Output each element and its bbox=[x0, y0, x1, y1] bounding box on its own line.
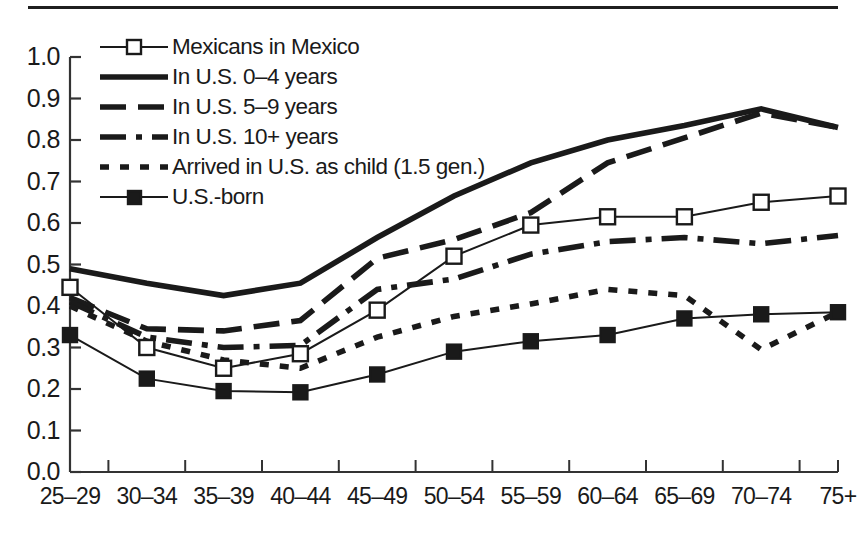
legend-swatch-icon bbox=[98, 34, 170, 60]
y-axis-tick-label: 1.0 bbox=[14, 44, 60, 69]
series-markers bbox=[63, 189, 846, 400]
data-point-marker bbox=[217, 384, 231, 398]
chart-legend: Mexicans in MexicoIn U.S. 0–4 yearsIn U.… bbox=[98, 32, 485, 212]
data-point-marker bbox=[754, 195, 769, 210]
x-axis-tick-label: 75+ bbox=[788, 484, 862, 508]
data-point-marker bbox=[447, 249, 462, 264]
y-axis-tick-label: 0.1 bbox=[14, 418, 60, 443]
legend-item-4: Arrived in U.S. as child (1.5 gen.) bbox=[98, 152, 485, 182]
legend-item-5: U.S.-born bbox=[98, 182, 485, 212]
y-axis-tick-label: 0.6 bbox=[14, 210, 60, 235]
data-point-marker bbox=[63, 280, 78, 295]
data-point-marker bbox=[370, 303, 385, 318]
y-axis-tick-label: 0.3 bbox=[14, 335, 60, 360]
data-point-marker bbox=[600, 209, 615, 224]
data-point-marker bbox=[677, 311, 691, 325]
y-axis-tick-label: 0.2 bbox=[14, 376, 60, 401]
legend-item-label: In U.S. 5–9 years bbox=[172, 95, 337, 119]
data-point-marker bbox=[140, 372, 154, 386]
legend-item-label: U.S.-born bbox=[172, 185, 264, 209]
legend-item-1: In U.S. 0–4 years bbox=[98, 62, 485, 92]
y-axis-tick-label: 0.4 bbox=[14, 293, 60, 318]
legend-swatch-icon bbox=[98, 64, 170, 90]
data-point-marker bbox=[524, 334, 538, 348]
data-point-marker bbox=[139, 340, 154, 355]
data-point-marker bbox=[831, 189, 846, 204]
legend-item-label: Mexicans in Mexico bbox=[172, 35, 359, 59]
data-point-marker bbox=[523, 218, 538, 233]
y-axis-tick-label: 0.0 bbox=[14, 459, 60, 484]
legend-swatch-icon bbox=[98, 154, 170, 180]
legend-item-label: In U.S. 0–4 years bbox=[172, 65, 337, 89]
y-axis-tick-label: 0.7 bbox=[14, 169, 60, 194]
legend-item-label: In U.S. 10+ years bbox=[172, 125, 338, 149]
data-point-marker bbox=[447, 345, 461, 359]
data-point-marker bbox=[677, 209, 692, 224]
legend-swatch-icon bbox=[98, 184, 170, 210]
data-point-marker bbox=[601, 328, 615, 342]
legend-item-3: In U.S. 10+ years bbox=[98, 122, 485, 152]
y-axis-tick-label: 0.9 bbox=[14, 86, 60, 111]
legend-item-2: In U.S. 5–9 years bbox=[98, 92, 485, 122]
figure-container: 0.00.10.20.30.40.50.60.70.80.91.0 25–293… bbox=[0, 0, 862, 538]
data-point-marker bbox=[63, 328, 77, 342]
y-axis-tick-label: 0.8 bbox=[14, 127, 60, 152]
data-point-marker bbox=[216, 361, 231, 376]
data-point-marker bbox=[831, 305, 845, 319]
legend-item-0: Mexicans in Mexico bbox=[98, 32, 485, 62]
data-point-marker bbox=[293, 385, 307, 399]
y-axis-tick-label: 0.5 bbox=[14, 252, 60, 277]
data-point-marker bbox=[293, 346, 308, 361]
data-point-marker bbox=[754, 307, 768, 321]
legend-item-label: Arrived in U.S. as child (1.5 gen.) bbox=[172, 155, 485, 179]
data-point-marker bbox=[370, 367, 384, 381]
legend-swatch-icon bbox=[98, 124, 170, 150]
legend-swatch-icon bbox=[98, 94, 170, 120]
